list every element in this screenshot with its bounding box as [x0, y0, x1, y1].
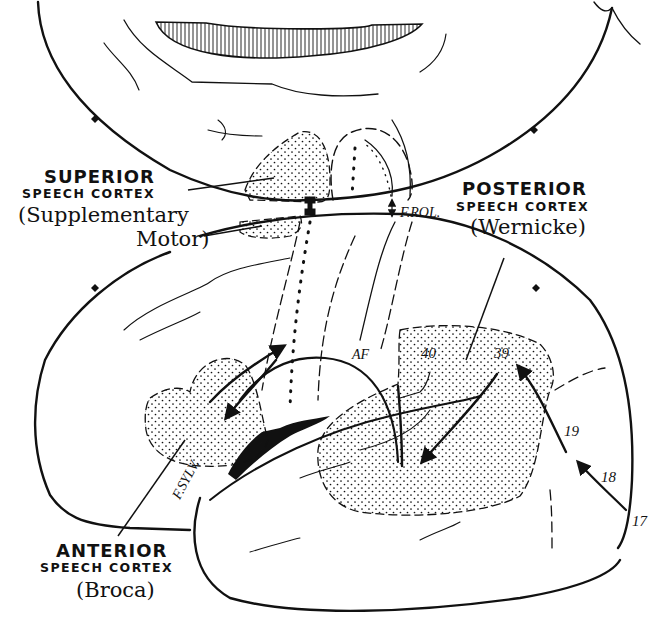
- rolandic-fissure-label: F.ROL.: [400, 206, 440, 220]
- posterior-title: POSTERIOR: [462, 180, 587, 198]
- superior-title: SUPERIOR: [44, 168, 155, 186]
- superior-speech-cortex-lower-region: [240, 216, 302, 238]
- posterior-name: (Wernicke): [470, 217, 586, 238]
- area-18-label: 18: [601, 470, 616, 485]
- area-39-label: 39: [494, 346, 509, 361]
- anterior-name: (Broca): [76, 580, 155, 601]
- anterior-subtitle: SPEECH CORTEX: [40, 562, 173, 575]
- posterior-subtitle: SPEECH CORTEX: [456, 201, 589, 214]
- superior-name-line1: (Supplementary: [18, 205, 189, 226]
- corpus-callosum: [156, 22, 422, 58]
- anterior-title: ANTERIOR: [56, 542, 167, 560]
- area-17-label: 17: [632, 514, 647, 529]
- area-40-label: 40: [421, 346, 436, 361]
- broca-region: [145, 358, 268, 466]
- superior-name-line2: Motor): [136, 229, 209, 250]
- area-19-label: 19: [564, 424, 579, 439]
- superior-speech-cortex-region: [245, 132, 330, 202]
- interhemispheric-connector: [305, 197, 315, 215]
- superior-subtitle: SPEECH CORTEX: [22, 188, 155, 201]
- brain-speech-areas-diagram: [0, 0, 658, 623]
- arcuate-fasciculus-label: AF: [352, 348, 369, 362]
